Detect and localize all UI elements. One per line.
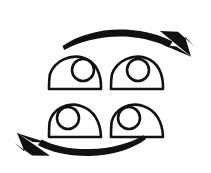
eye-bottom-left-pupil <box>57 107 79 129</box>
eye-bottom-right-pupil <box>118 107 140 129</box>
eye-rotation-diagram <box>0 0 211 173</box>
eye-top-right-pupil <box>127 59 149 81</box>
eye-top-left-pupil <box>72 59 94 81</box>
diagram-canvas <box>0 0 211 173</box>
